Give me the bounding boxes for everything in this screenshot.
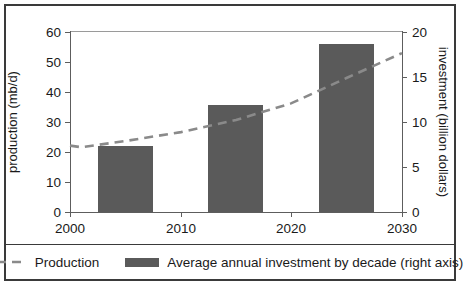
y-axis-title: production (mb/d) <box>5 71 20 173</box>
y-tick-label-40: 40 <box>46 85 61 100</box>
y2-tick-label-0: 0 <box>412 205 420 220</box>
legend-item-investment: Average annual investment by decade (rig… <box>125 255 463 270</box>
legend-label-production: Production <box>35 255 100 270</box>
y-tick-label-20: 20 <box>46 145 61 160</box>
y-tick-label-30: 30 <box>46 115 61 130</box>
chart-figure: production (mb/d) investment (billion do… <box>4 4 456 281</box>
y-tick-label-60: 60 <box>46 25 61 40</box>
y2-tick-label-5: 5 <box>412 160 420 175</box>
filled-bar-icon <box>125 258 159 267</box>
y2-axis-title: investment (billion dollars) <box>436 47 451 197</box>
y2-tick-label-10: 10 <box>412 115 427 130</box>
x-tick-label-2000: 2000 <box>55 221 85 236</box>
chart-legend: Production Average annual investment by … <box>6 245 454 279</box>
legend-label-investment: Average annual investment by decade (rig… <box>167 255 463 270</box>
y2-tick-label-15: 15 <box>412 70 427 85</box>
y-tick-label-0: 0 <box>53 205 61 220</box>
plot-area-wrapper: production (mb/d) investment (billion do… <box>6 6 454 242</box>
x-tick-label-2030: 2030 <box>387 221 417 236</box>
y-tick-label-50: 50 <box>46 55 61 70</box>
y-tick-label-10: 10 <box>46 175 61 190</box>
production-line <box>70 31 403 213</box>
x-tick-label-2010: 2010 <box>166 221 196 236</box>
x-tick-label-2020: 2020 <box>276 221 306 236</box>
legend-item-production: Production <box>0 255 99 270</box>
y2-tick-label-20: 20 <box>412 25 427 40</box>
dashed-line-icon <box>0 257 27 267</box>
plot-area: 0 10 20 30 40 50 60 0 5 10 15 20 <box>70 31 402 213</box>
